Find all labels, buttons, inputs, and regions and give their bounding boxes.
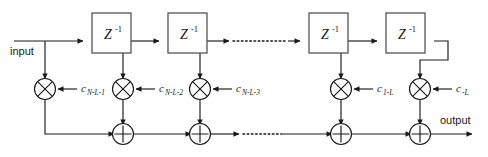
multiplier-output-group bbox=[45, 99, 420, 134]
delay-block-z4-label: Z bbox=[398, 27, 406, 42]
delay-block-z2-exponent: -1 bbox=[191, 24, 198, 34]
multiplier-4: c 1-L bbox=[331, 79, 394, 100]
coefficient-label-5: c bbox=[456, 82, 461, 94]
delay-block-z2: Z -1 bbox=[168, 13, 207, 53]
adder-4 bbox=[410, 124, 431, 145]
coefficient-label-3: c bbox=[236, 82, 241, 94]
delay-block-z3-exponent: -1 bbox=[332, 24, 339, 34]
coefficient-label-2: c bbox=[159, 82, 164, 94]
input-label: input bbox=[10, 45, 34, 57]
coefficient-subscript-2: N-L-2 bbox=[164, 88, 183, 97]
adder-2 bbox=[190, 124, 211, 145]
delay-block-z3-label: Z bbox=[321, 27, 329, 42]
wire-mul1-to-add1 bbox=[45, 99, 114, 134]
multipliers-group: c N-L-1 c N-L-2 c N-L-3 c bbox=[35, 79, 469, 100]
coefficient-label-4: c bbox=[377, 82, 382, 94]
multiplier-3: c N-L-3 bbox=[190, 79, 261, 100]
delay-block-z1: Z -1 bbox=[92, 13, 131, 53]
delay-block-z2-label: Z bbox=[180, 27, 188, 42]
delay-block-z4-exponent: -1 bbox=[409, 24, 416, 34]
adder-1 bbox=[113, 124, 134, 145]
delay-block-z1-label: Z bbox=[104, 27, 112, 42]
multiplier-5: c -L bbox=[410, 79, 469, 100]
delay-block-z4: Z -1 bbox=[386, 13, 425, 53]
multiplier-2: c N-L-2 bbox=[113, 79, 184, 100]
coefficient-subscript-1: N-L-1 bbox=[86, 88, 105, 97]
delay-block-z1-exponent: -1 bbox=[115, 24, 122, 34]
coefficient-subscript-5: -L bbox=[462, 88, 469, 97]
coefficient-label-1: c bbox=[81, 82, 86, 94]
coefficient-subscript-3: N-L-3 bbox=[241, 88, 260, 97]
delay-block-z3: Z -1 bbox=[309, 13, 348, 53]
coefficient-subscript-4: 1-L bbox=[383, 88, 393, 97]
delay-blocks-group: Z -1 Z -1 Z -1 Z -1 bbox=[92, 13, 425, 53]
adder-3 bbox=[331, 124, 352, 145]
multiplier-1: c N-L-1 bbox=[35, 79, 105, 100]
fir-filter-canvas: Z -1 Z -1 Z -1 Z -1 bbox=[0, 0, 488, 157]
output-label: output bbox=[440, 114, 471, 126]
fir-filter-diagram: Z -1 Z -1 Z -1 Z -1 bbox=[0, 0, 488, 157]
